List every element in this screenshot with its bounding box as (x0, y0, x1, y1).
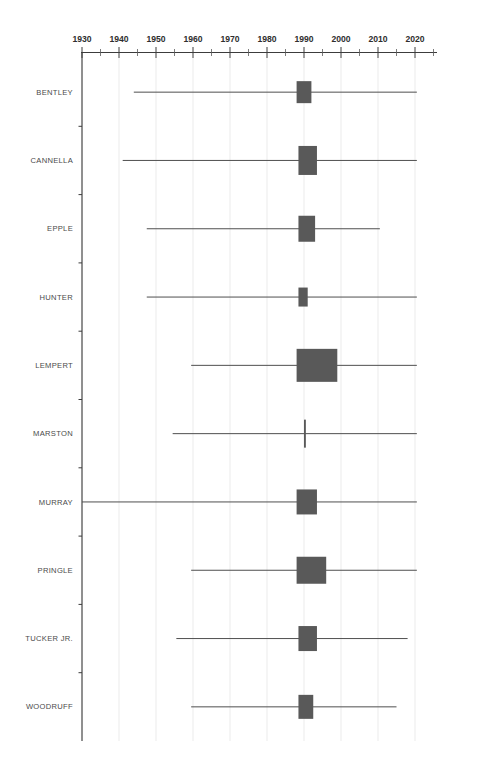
estimate-box (298, 146, 317, 175)
category-label: PRINGLE (38, 566, 73, 575)
category-label: TUCKER JR. (25, 634, 73, 643)
category-label: LEMPERT (35, 361, 73, 370)
x-axis (81, 47, 437, 741)
x-tick-label: 1960 (183, 34, 202, 44)
x-tick-label: 1930 (72, 34, 91, 44)
estimate-box (297, 81, 312, 103)
category-label: MARSTON (33, 429, 73, 438)
forest-row[interactable] (191, 695, 396, 719)
estimate-box (298, 626, 317, 651)
forest-row[interactable] (191, 557, 417, 584)
plot-area: 1930194019501960197019801990200020102020… (0, 0, 501, 769)
x-tick-label: 2010 (368, 34, 387, 44)
x-tick-label: 1990 (294, 34, 313, 44)
data-rows (82, 81, 417, 719)
forest-row[interactable] (123, 146, 417, 175)
category-label: CANNELLA (31, 156, 74, 165)
forest-row[interactable] (82, 489, 417, 514)
category-label: BENTLEY (36, 88, 73, 97)
x-tick-label: 1980 (257, 34, 276, 44)
x-tick-label: 2000 (331, 34, 350, 44)
estimate-box (304, 420, 306, 448)
x-tick-label: 1970 (220, 34, 239, 44)
estimate-box (298, 288, 307, 307)
x-tick-labels: 1930194019501960197019801990200020102020 (72, 34, 424, 44)
estimate-box (297, 489, 317, 514)
forest-row[interactable] (147, 288, 417, 307)
category-label: WOODRUFF (26, 702, 73, 711)
forest-row[interactable] (176, 626, 407, 651)
category-label: HUNTER (40, 293, 74, 302)
estimate-box (298, 216, 315, 242)
x-tick-label: 2020 (405, 34, 424, 44)
estimate-box (297, 557, 327, 584)
forest-row[interactable] (173, 420, 417, 448)
estimate-box (298, 695, 313, 719)
forest-row[interactable] (134, 81, 417, 103)
x-tick-label: 1940 (109, 34, 128, 44)
x-tick-label: 1950 (146, 34, 165, 44)
category-label: EPPLE (47, 224, 73, 233)
estimate-box (297, 349, 338, 382)
category-labels: BENTLEYCANNELLAEPPLEHUNTERLEMPERTMARSTON… (25, 88, 82, 712)
forest-plot-chart: 1930194019501960197019801990200020102020… (0, 0, 501, 769)
category-label: MURRAY (39, 498, 73, 507)
forest-row[interactable] (191, 349, 417, 382)
forest-row[interactable] (147, 216, 380, 242)
